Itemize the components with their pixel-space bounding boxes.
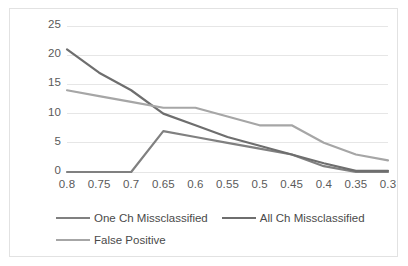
- x-axis-tick-label: 0.8: [50, 178, 84, 190]
- series-lines: [67, 49, 388, 172]
- chart-container: 0510152025 0.80.750.70.650.60.550.50.450…: [9, 8, 398, 257]
- legend-item-label: One Ch Missclassified: [94, 212, 208, 224]
- x-axis-tick-label: 0.6: [178, 178, 212, 190]
- legend-item-all-ch-missclassified[interactable]: All Ch Missclassified: [222, 212, 365, 224]
- legend-item-one-ch-missclassified[interactable]: One Ch Missclassified: [56, 212, 208, 224]
- x-axis-tick-label: 0.45: [275, 178, 309, 190]
- x-axis-tick-label: 0.5: [243, 178, 277, 190]
- legend-line-swatch-icon: [222, 217, 256, 219]
- series-line: [67, 90, 388, 160]
- legend-item-label: All Ch Missclassified: [260, 212, 365, 224]
- chart-legend: One Ch Missclassified All Ch Missclassif…: [56, 207, 386, 251]
- legend-line-swatch-icon: [56, 239, 90, 241]
- y-axis-tick-label: 0: [35, 164, 61, 176]
- x-axis-tick-label: 0.55: [211, 178, 245, 190]
- x-axis-tick-label: 0.4: [307, 178, 341, 190]
- x-axis-tick-label: 0.7: [114, 178, 148, 190]
- x-axis-tick-label: 0.35: [339, 178, 373, 190]
- legend-item-false-positive[interactable]: False Positive: [56, 234, 166, 246]
- legend-row: False Positive: [56, 229, 386, 251]
- legend-item-label: False Positive: [94, 234, 166, 246]
- y-axis-tick-label: 10: [35, 106, 61, 118]
- x-axis-tick-label: 0.3: [371, 178, 405, 190]
- legend-line-swatch-icon: [56, 217, 90, 219]
- y-axis-tick-label: 5: [35, 135, 61, 147]
- series-line: [67, 49, 388, 170]
- x-axis-tick-label: 0.65: [146, 178, 180, 190]
- legend-row: One Ch Missclassified All Ch Missclassif…: [56, 207, 386, 229]
- y-axis-tick-label: 15: [35, 76, 61, 88]
- y-axis-tick-label: 25: [35, 18, 61, 30]
- x-axis-tick-label: 0.75: [82, 178, 116, 190]
- y-axis-tick-label: 20: [35, 47, 61, 59]
